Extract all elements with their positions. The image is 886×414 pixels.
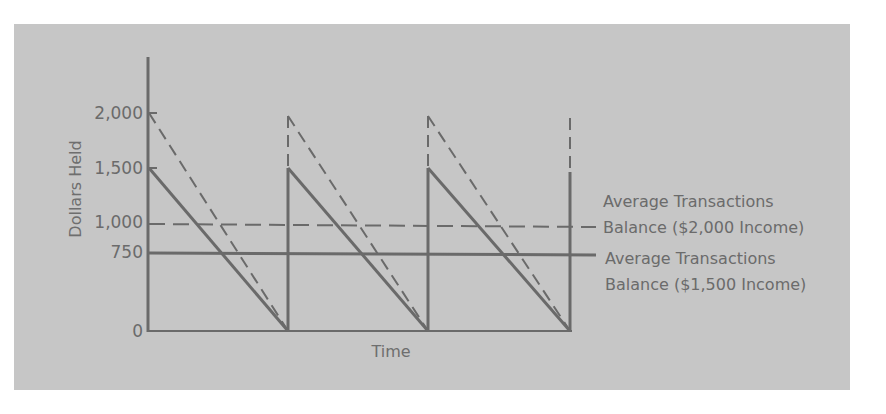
chart-svg: 2,000 1,500 1,000 750 0 Dollars Held Tim…	[0, 0, 886, 414]
avg-1500-label-line1: Average Transactions	[605, 249, 776, 268]
y-tick-label-2000: 2,000	[94, 103, 143, 123]
avg-1500-label-line2: Balance ($1,500 Income)	[605, 275, 806, 294]
series-1500-sawtooth	[149, 168, 570, 331]
avg-2000-label-line1: Average Transactions	[603, 192, 774, 211]
avg-2000-label-line2: Balance ($2,000 Income)	[603, 218, 804, 237]
y-tick-label-0: 0	[132, 321, 143, 341]
y-axis-title: Dollars Held	[66, 140, 85, 237]
y-tick-label-750: 750	[111, 242, 143, 262]
x-axis-title: Time	[370, 342, 410, 361]
y-tick-label-1500: 1,500	[94, 158, 143, 178]
avg-balance-2000-line	[149, 224, 596, 227]
y-tick-label-1000: 1,000	[94, 212, 143, 232]
avg-balance-1500-line	[149, 253, 596, 255]
series-2000-sawtooth	[149, 113, 570, 331]
